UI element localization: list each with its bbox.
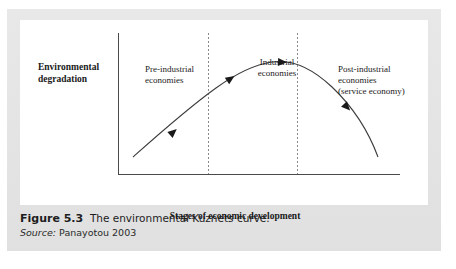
region-label-industrial: Industrial economies bbox=[235, 57, 319, 79]
region-label-pre-industrial-line-2: economies bbox=[145, 75, 223, 86]
chart-panel: Environmental degradation Stages of econ… bbox=[20, 20, 428, 205]
figure-source-label: Source: bbox=[20, 227, 56, 238]
figure-source: Source: Panayotou 2003 bbox=[20, 227, 432, 239]
kuznets-curve-chart bbox=[20, 20, 428, 205]
figure-caption-text: The environmental Kuznets curve. bbox=[90, 212, 270, 224]
figure-caption-block: Figure 5.3 The environmental Kuznets cur… bbox=[20, 212, 432, 248]
curve-arrow-marker-1 bbox=[167, 126, 179, 138]
region-label-pre-industrial-line-1: Pre-industrial bbox=[145, 64, 223, 75]
y-axis-title: Environmental degradation bbox=[38, 62, 126, 85]
region-label-industrial-line-2: economies bbox=[235, 68, 319, 79]
figure-screenshot: Environmental degradation Stages of econ… bbox=[0, 0, 456, 269]
region-label-post-industrial: Post-industrial economies (service econo… bbox=[338, 64, 443, 97]
region-label-industrial-line-1: Industrial bbox=[235, 57, 319, 68]
region-label-post-industrial-line-1: Post-industrial bbox=[338, 64, 443, 75]
region-label-pre-industrial: Pre-industrial economies bbox=[145, 64, 223, 86]
figure-number: Figure 5.3 bbox=[20, 212, 83, 225]
region-label-post-industrial-line-2: economies bbox=[338, 75, 443, 86]
curve-arrow-marker-4 bbox=[341, 101, 353, 113]
region-label-post-industrial-line-3: (service economy) bbox=[338, 86, 443, 97]
y-axis-title-text: Environmental degradation bbox=[38, 62, 126, 85]
figure-caption: Figure 5.3 The environmental Kuznets cur… bbox=[20, 212, 432, 225]
figure-source-value: Panayotou 2003 bbox=[59, 227, 136, 238]
